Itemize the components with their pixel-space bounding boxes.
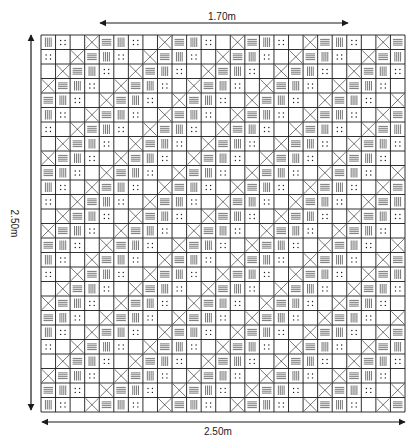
tile-four-dots	[104, 69, 110, 74]
tile-vertical-lines	[220, 226, 226, 236]
tile-horizontal-lines	[87, 126, 97, 132]
tile-cross	[290, 51, 303, 64]
tile-cross	[362, 341, 375, 354]
tile-horizontal-lines	[306, 271, 316, 277]
tile-cross	[231, 254, 244, 267]
tile-cross	[188, 297, 201, 310]
tile-four-dots	[206, 112, 212, 117]
tile-four-dots	[351, 112, 357, 117]
tile-horizontal-lines	[364, 358, 374, 364]
tile-vertical-lines	[293, 371, 299, 381]
tile-cross	[173, 167, 186, 180]
tile-horizontal-lines	[320, 112, 330, 118]
tile-four-dots	[293, 243, 299, 248]
tile-cross	[188, 225, 201, 238]
tile-horizontal-lines	[58, 83, 68, 89]
tile-cross	[304, 36, 317, 49]
tile-horizontal-lines	[247, 329, 257, 335]
tile-horizontal-lines	[204, 83, 214, 89]
tile-cross	[391, 384, 404, 397]
tile-cross	[377, 109, 390, 122]
tile-cross	[304, 181, 317, 194]
tile-cross	[231, 399, 244, 412]
tile-vertical-lines	[337, 400, 343, 410]
tile-vertical-lines	[147, 371, 153, 381]
tile-cross	[319, 94, 332, 107]
tile-four-dots	[45, 199, 51, 204]
tile-four-dots	[278, 402, 284, 407]
tile-vertical-lines	[249, 342, 255, 352]
tile-vertical-lines	[235, 139, 241, 149]
tile-horizontal-lines	[378, 344, 388, 350]
tile-cross	[319, 167, 332, 180]
tile-vertical-lines	[75, 371, 81, 381]
tile-four-dots	[206, 185, 212, 190]
tile-cross	[86, 326, 99, 339]
tile-horizontal-lines	[131, 300, 141, 306]
tile-four-dots	[133, 185, 139, 190]
tile-cross	[333, 152, 346, 165]
tile-vertical-lines	[395, 52, 401, 62]
tile-horizontal-lines	[247, 257, 257, 263]
tile-vertical-lines	[351, 96, 357, 106]
tile-cross	[290, 123, 303, 136]
tile-horizontal-lines	[116, 97, 126, 103]
tile-four-dots	[75, 170, 81, 175]
tile-cross	[391, 312, 404, 325]
tile-horizontal-lines	[116, 315, 126, 321]
tile-horizontal-lines	[189, 242, 199, 248]
tile-vertical-lines	[147, 299, 153, 309]
tile-four-dots	[176, 214, 182, 219]
tile-cross	[202, 355, 215, 368]
tile-cross	[158, 181, 171, 194]
tile-horizontal-lines	[44, 315, 54, 321]
tile-four-dots	[322, 359, 328, 364]
tile-four-dots	[206, 330, 212, 335]
tile-cross	[304, 109, 317, 122]
tile-horizontal-lines	[320, 257, 330, 263]
tile-four-dots	[89, 301, 95, 306]
tile-four-dots	[351, 40, 357, 45]
tile-four-dots	[206, 257, 212, 262]
tile-four-dots	[307, 156, 313, 161]
tile-cross	[362, 51, 375, 64]
tile-horizontal-lines	[247, 112, 257, 118]
tile-vertical-lines	[307, 139, 313, 149]
tile-horizontal-lines	[175, 39, 185, 45]
tile-vertical-lines	[395, 125, 401, 135]
tile-cross	[158, 254, 171, 267]
tile-cross	[173, 384, 186, 397]
tile-four-dots	[75, 98, 81, 103]
tile-horizontal-lines	[378, 126, 388, 132]
tile-vertical-lines	[235, 357, 241, 367]
tile-four-dots	[89, 156, 95, 161]
tile-cross	[100, 312, 113, 325]
tile-horizontal-lines	[335, 170, 345, 176]
tile-vertical-lines	[118, 255, 124, 265]
tile-four-dots	[351, 185, 357, 190]
tile-cross	[319, 384, 332, 397]
tile-horizontal-lines	[349, 228, 359, 234]
tile-cross	[275, 138, 288, 151]
tile-vertical-lines	[380, 139, 386, 149]
tile-four-dots	[307, 228, 313, 233]
tile-four-dots	[104, 141, 110, 146]
tile-horizontal-lines	[349, 155, 359, 161]
tile-cross	[377, 36, 390, 49]
tile-horizontal-lines	[247, 402, 257, 408]
tile-vertical-lines	[264, 38, 270, 48]
tile-horizontal-lines	[58, 300, 68, 306]
tile-vertical-lines	[322, 270, 328, 280]
tile-horizontal-lines	[262, 315, 272, 321]
tile-four-dots	[220, 243, 226, 248]
tile-horizontal-lines	[189, 97, 199, 103]
tile-four-dots	[235, 301, 241, 306]
tile-cross	[188, 370, 201, 383]
tile-four-dots	[220, 98, 226, 103]
tile-vertical-lines	[133, 168, 139, 178]
tile-four-dots	[104, 286, 110, 291]
tile-four-dots	[307, 301, 313, 306]
tile-cross	[86, 109, 99, 122]
tile-four-dots	[395, 359, 401, 364]
tile-vertical-lines	[118, 38, 124, 48]
